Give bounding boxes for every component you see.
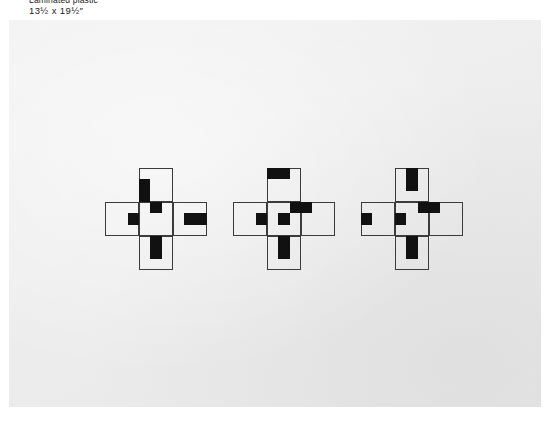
figure-2-cell-3 bbox=[301, 202, 312, 213]
figure-1-cell-0 bbox=[139, 179, 150, 190]
figure-2 bbox=[233, 168, 335, 270]
figure-3-cell-7 bbox=[406, 247, 417, 258]
figure-2-cell-5 bbox=[278, 213, 289, 224]
figure-1-cell-6 bbox=[150, 236, 161, 247]
figure-3-cell-4 bbox=[361, 213, 372, 224]
figure-3-cell-0 bbox=[406, 168, 417, 179]
figure-2-cell-4 bbox=[256, 213, 267, 224]
figure-1-cell-1 bbox=[139, 191, 150, 202]
figure-2-cell-7 bbox=[278, 247, 289, 258]
figure-1-cell-4 bbox=[184, 213, 195, 224]
figure-1-cell-5 bbox=[196, 213, 207, 224]
figure-1-cell-2 bbox=[150, 202, 161, 213]
figure-3-cell-1 bbox=[406, 179, 417, 190]
figure-3 bbox=[361, 168, 463, 270]
figure-1 bbox=[105, 168, 207, 270]
figure-2-cell-1 bbox=[278, 168, 289, 179]
figure-3-cell-6 bbox=[406, 236, 417, 247]
figure-1-cell-3 bbox=[128, 213, 139, 224]
figure-1-cell-7 bbox=[150, 247, 161, 258]
figure-3-cell-5 bbox=[395, 213, 406, 224]
figure-3-cell-2 bbox=[418, 202, 429, 213]
figure-group bbox=[0, 0, 549, 425]
figure-2-cell-2 bbox=[290, 202, 301, 213]
figure-3-cell-3 bbox=[429, 202, 440, 213]
figure-2-cell-6 bbox=[278, 236, 289, 247]
figure-2-cell-0 bbox=[267, 168, 278, 179]
